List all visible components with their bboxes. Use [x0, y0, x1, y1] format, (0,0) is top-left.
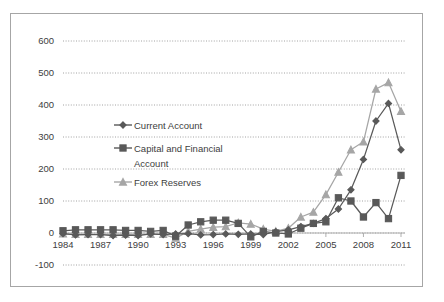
legend-label: Current Account: [134, 120, 202, 131]
data-point-triangle: [347, 146, 354, 153]
x-tick-label: 1996: [203, 239, 224, 250]
data-point-triangle: [360, 138, 367, 145]
x-tick-label: 2008: [353, 239, 374, 250]
data-point-triangle: [335, 169, 342, 176]
x-tick-label: 2002: [278, 239, 299, 250]
data-point-square: [185, 222, 191, 228]
y-tick-label: 100: [38, 195, 54, 206]
data-point-triangle: [372, 85, 379, 92]
data-point-triangle: [385, 79, 392, 86]
data-point-square: [198, 219, 204, 225]
legend-label: Capital and Financial: [134, 143, 223, 154]
data-point-diamond: [348, 187, 354, 193]
data-point-diamond: [210, 232, 216, 238]
data-point-diamond: [235, 231, 241, 237]
legend-item-1: Capital and Financial: [114, 143, 223, 154]
series-line: [63, 83, 401, 239]
balance-of-payments-line-chart: 6005004003002001000-100 1984198719901993…: [0, 0, 444, 302]
data-point-triangle: [398, 108, 405, 115]
data-point-square: [385, 216, 391, 222]
data-series-layer: [60, 79, 405, 241]
series-forex-reserves: [60, 79, 405, 241]
data-point-square: [223, 217, 229, 223]
legend-label: Account: [134, 158, 169, 169]
x-axis-tick-labels: 1984198719901993199619992002200520082011: [52, 239, 411, 250]
data-point-diamond: [398, 147, 404, 153]
data-point-diamond: [223, 231, 229, 237]
x-tick-label: 1990: [128, 239, 149, 250]
data-point-square: [373, 200, 379, 206]
data-point-diamond: [360, 156, 366, 162]
data-point-square: [335, 195, 341, 201]
x-tick-label: 1984: [52, 239, 73, 250]
x-tick-label: 2005: [315, 239, 336, 250]
series-current-account: [60, 100, 404, 238]
legend-item-0: Current Account: [114, 120, 202, 131]
data-point-triangle: [297, 213, 304, 220]
series-line: [63, 103, 401, 235]
data-point-square: [235, 220, 241, 226]
x-tick-label: 1987: [90, 239, 111, 250]
series-capital-and-financial-account: [60, 172, 404, 240]
y-tick-label: 300: [38, 131, 54, 142]
data-point-diamond: [120, 122, 126, 128]
y-tick-label: 0: [49, 227, 54, 238]
legend-item-3: Forex Reserves: [114, 177, 201, 188]
data-point-triangle: [322, 191, 329, 198]
data-point-square: [120, 145, 126, 151]
y-tick-label: 500: [38, 67, 54, 78]
chart-legend: Current AccountCapital and FinancialAcco…: [114, 120, 223, 188]
legend-item-2: Account: [134, 158, 169, 169]
y-axis-tick-labels: 6005004003002001000-100: [35, 35, 54, 270]
data-point-square: [360, 214, 366, 220]
legend-label: Forex Reserves: [134, 177, 201, 188]
y-tick-label: 400: [38, 99, 54, 110]
y-tick-label: 200: [38, 163, 54, 174]
y-tick-label: 600: [38, 35, 54, 46]
y-tick-label: -100: [35, 259, 54, 270]
data-point-square: [210, 217, 216, 223]
x-tick-label: 2011: [391, 239, 411, 250]
data-point-square: [398, 172, 404, 178]
data-point-square: [348, 198, 354, 204]
